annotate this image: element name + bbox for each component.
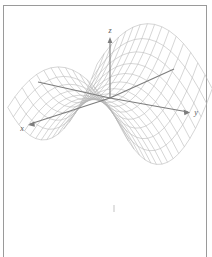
mesh-line-u bbox=[123, 89, 212, 165]
mesh-line-u bbox=[22, 44, 111, 120]
mesh-line-v bbox=[47, 99, 162, 164]
z-axis-arrowhead bbox=[108, 37, 113, 43]
mesh-line-v bbox=[64, 89, 179, 154]
x-axis-negative-line bbox=[30, 98, 110, 124]
y-axis-arrowhead bbox=[184, 110, 190, 116]
z-axis-label: z bbox=[107, 26, 112, 35]
y-axis-label: y bbox=[193, 108, 198, 117]
x-axis-positive-line bbox=[110, 69, 174, 98]
x-axis-label: x bbox=[19, 124, 24, 133]
mesh-line-v bbox=[97, 24, 212, 89]
mesh-line-v bbox=[19, 84, 134, 149]
mesh-line-v bbox=[58, 94, 173, 159]
